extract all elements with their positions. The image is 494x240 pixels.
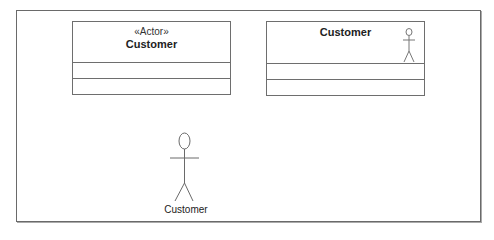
actor-class-box-icon[interactable]: Customer: [266, 21, 425, 96]
actor-class-box-stereotype[interactable]: «Actor» Customer: [72, 21, 231, 95]
stereotype-label: «Actor»: [73, 26, 230, 37]
stick-figure-icon[interactable]: [165, 131, 205, 203]
attributes-compartment: [267, 63, 424, 80]
attributes-compartment: [73, 62, 230, 79]
operations-compartment: [73, 78, 230, 96]
class-name: Customer: [73, 38, 230, 50]
operations-compartment: [267, 79, 424, 97]
stick-figure-icon: [400, 28, 420, 64]
actor-name-label: Customer: [146, 204, 226, 215]
